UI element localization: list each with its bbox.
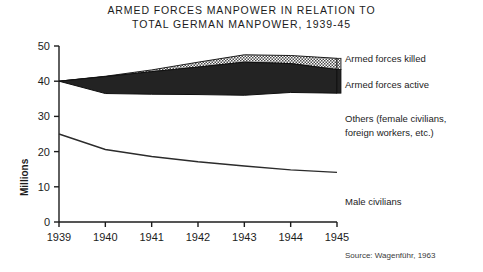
y-tick-label-20: 20 (38, 146, 50, 158)
y-tick-label-50: 50 (38, 40, 50, 52)
y-tick-label-30: 30 (38, 110, 50, 122)
y-axis-tick-labels: 01020304050 (38, 40, 50, 228)
x-tick-label-1941: 1941 (139, 231, 163, 243)
annotation-others-line-1: Others (female civilians, (345, 113, 446, 124)
x-tick-label-1945: 1945 (325, 231, 349, 243)
annotation-armed-forces-killed: Armed forces killed (345, 53, 426, 64)
x-axis-tick-labels: 1939194019411942194319441945 (47, 231, 349, 243)
x-tick-label-1940: 1940 (93, 231, 117, 243)
x-tick-label-1943: 1943 (232, 231, 256, 243)
y-tick-label-0: 0 (44, 216, 50, 228)
y-tick-label-40: 40 (38, 75, 50, 87)
legend-swatch-killed (337, 58, 341, 69)
series-armed-forces-active (59, 62, 341, 95)
annotation-armed-forces-active: Armed forces active (345, 79, 429, 90)
series-male-civilians (59, 134, 337, 172)
legend-swatch-active (337, 70, 341, 94)
annotation-others-line-2: foreign workers, etc.) (345, 127, 434, 138)
y-axis-title: Millions (19, 158, 30, 196)
annotation-male-civilians: Male civilians (345, 196, 402, 207)
chart-figure: ARMED FORCES MANPOWER IN RELATION TO TOT… (0, 0, 483, 272)
chart-plot-area: 01020304050 1939194019411942194319441945… (0, 0, 483, 272)
line-male-civilians (59, 134, 337, 172)
area-armed-forces-active (59, 62, 337, 95)
y-tick-label-10: 10 (38, 181, 50, 193)
x-tick-label-1939: 1939 (47, 231, 71, 243)
x-axis-ticks (59, 222, 337, 227)
x-tick-label-1942: 1942 (186, 231, 210, 243)
x-tick-label-1944: 1944 (278, 231, 302, 243)
source-caption: Source: Wagenführ, 1963 (345, 251, 436, 260)
